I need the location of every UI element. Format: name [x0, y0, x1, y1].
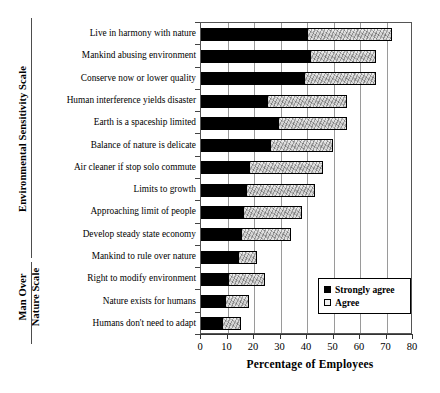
bar-segment-agree	[241, 228, 291, 241]
gridline-30	[281, 23, 282, 333]
x-axis-tick	[306, 334, 307, 339]
category-label: Approaching limit of people	[38, 206, 196, 216]
bar-row	[201, 206, 413, 219]
bar-row	[201, 50, 413, 63]
gridline-10	[228, 23, 229, 333]
bar-segment-strongly-agree	[201, 139, 270, 152]
bar-row	[201, 139, 413, 152]
x-axis-tick-label: 70	[371, 341, 401, 352]
group-rule-environmental	[31, 18, 32, 258]
x-axis-tick-label: 20	[238, 341, 268, 352]
x-axis-tick-label: 10	[212, 341, 242, 352]
group-rule-man-over-nature	[31, 262, 32, 344]
bar-segment-agree	[267, 95, 347, 108]
category-label: Conserve now or lower quality	[38, 73, 196, 83]
bar-row	[201, 228, 413, 241]
bar-segment-strongly-agree	[201, 50, 310, 63]
bar-segment-strongly-agree	[201, 28, 307, 41]
category-label: Mankind abusing environment	[38, 50, 196, 60]
bar-row	[201, 251, 413, 264]
category-label: Limits to growth	[38, 184, 196, 194]
legend-swatch-strongly-agree	[324, 286, 331, 293]
group-label-line1: Man Over	[17, 273, 28, 320]
bar-segment-strongly-agree	[201, 228, 241, 241]
x-axis-tick-label: 30	[265, 341, 295, 352]
bar-segment-strongly-agree	[201, 161, 249, 174]
bar-segment-strongly-agree	[201, 273, 228, 286]
x-axis-tick	[280, 334, 281, 339]
gridline-20	[254, 23, 255, 333]
bar-segment-strongly-agree	[201, 251, 238, 264]
x-axis-tick	[386, 334, 387, 339]
category-label: Right to modify environment	[38, 273, 196, 283]
bar-row	[201, 161, 413, 174]
bar-segment-agree	[304, 72, 376, 85]
bar-row	[201, 184, 413, 197]
category-label: Develop steady state economy	[38, 229, 196, 239]
category-label: Earth is a spaceship limited	[38, 117, 196, 127]
category-label: Mankind to rule over nature	[38, 251, 196, 261]
bar-row	[201, 117, 413, 130]
chart-legend: Strongly agree Agree	[318, 278, 411, 314]
bar-segment-agree	[243, 206, 301, 219]
category-label: Balance of nature is delicate	[38, 140, 196, 150]
bar-segment-agree	[228, 273, 265, 286]
legend-label-strongly-agree: Strongly agree	[335, 284, 395, 295]
bar-segment-strongly-agree	[201, 72, 304, 85]
category-labels: Live in harmony with natureMankind abusi…	[38, 22, 196, 334]
x-axis-tick	[200, 334, 201, 339]
bar-segment-strongly-agree	[201, 184, 246, 197]
category-label: Humans don't need to adapt	[38, 318, 196, 328]
bar-segment-strongly-agree	[201, 117, 278, 130]
x-axis-tick-label: 60	[344, 341, 374, 352]
x-axis-title: Percentage of Employees	[190, 358, 430, 370]
x-axis-tick	[333, 334, 334, 339]
legend-item-agree: Agree	[324, 296, 405, 309]
category-label: Live in harmony with nature	[38, 28, 196, 38]
category-label: Nature exists for humans	[38, 296, 196, 306]
x-axis-tick-label: 40	[291, 341, 321, 352]
x-axis-tick	[359, 334, 360, 339]
bar-row	[201, 72, 413, 85]
chart-figure: Environmental Sensitivity Scale Man Over…	[0, 0, 440, 393]
bar-segment-strongly-agree	[201, 206, 243, 219]
bar-segment-agree	[307, 28, 392, 41]
legend-item-strongly-agree: Strongly agree	[324, 283, 405, 296]
category-label: Human interference yields disaster	[38, 95, 196, 105]
legend-swatch-agree	[324, 299, 331, 306]
x-axis-tick	[412, 334, 413, 339]
group-label-environmental-sensitivity-scale: Environmental Sensitivity Scale	[17, 16, 28, 262]
bar-segment-strongly-agree	[201, 317, 222, 330]
bar-segment-agree	[270, 139, 334, 152]
category-label: Air cleaner if stop solo commute	[38, 162, 196, 172]
x-axis-tick-label: 50	[318, 341, 348, 352]
legend-label-agree: Agree	[335, 297, 359, 308]
bar-segment-agree	[238, 251, 257, 264]
bar-segment-agree	[225, 295, 249, 308]
x-axis-tick	[253, 334, 254, 339]
x-axis-tick-label: 80	[397, 341, 427, 352]
bar-segment-agree	[246, 184, 315, 197]
bar-segment-agree	[278, 117, 347, 130]
x-axis-tick-label: 0	[185, 341, 215, 352]
bar-segment-agree	[310, 50, 376, 63]
bar-row	[201, 95, 413, 108]
gridline-40	[307, 23, 308, 333]
bar-row	[201, 28, 413, 41]
bar-segment-agree	[222, 317, 241, 330]
bar-segment-strongly-agree	[201, 295, 225, 308]
bar-segment-agree	[249, 161, 323, 174]
bar-row	[201, 317, 413, 330]
bar-segment-strongly-agree	[201, 95, 267, 108]
x-axis-tick	[227, 334, 228, 339]
